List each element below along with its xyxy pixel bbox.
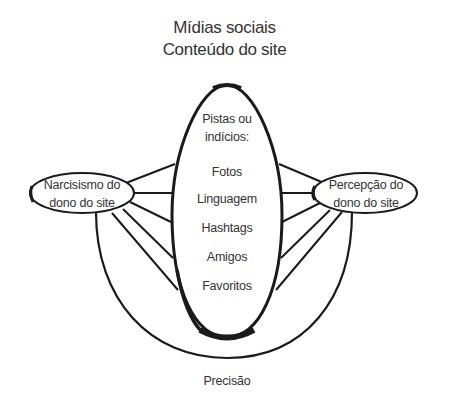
cue-amigos: Amigos xyxy=(177,250,277,264)
left-node-label: Narcisismo do dono do site xyxy=(32,176,132,212)
left-node-line-2: dono do site xyxy=(32,194,132,212)
cues-heading-line-1: Pistas ou xyxy=(177,112,277,126)
cues-heading-line-2: indícios: xyxy=(177,130,277,144)
cue-hashtags: Hashtags xyxy=(177,221,277,235)
right-node-label: Percepção do dono do site xyxy=(316,176,416,212)
cue-linguagem: Linguagem xyxy=(177,192,277,206)
cue-favoritos: Favoritos xyxy=(177,279,277,293)
right-node-line-2: dono do site xyxy=(316,194,416,212)
right-node-line-1: Percepção do xyxy=(316,176,416,194)
accuracy-label: Precisão xyxy=(177,374,277,388)
left-node-line-1: Narcisismo do xyxy=(32,176,132,194)
cue-fotos: Fotos xyxy=(177,165,277,179)
